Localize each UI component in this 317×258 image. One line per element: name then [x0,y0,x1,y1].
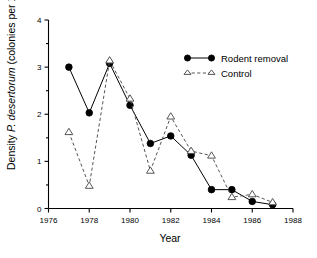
x-tick-label: 1988 [284,216,302,225]
y-tick-label: 1 [37,157,42,166]
y-tick-label: 0 [37,205,42,214]
x-tick-label: 1984 [203,216,221,225]
legend-label-rodent-removal: Rodent removal [221,53,288,64]
x-tick-group: 1976197819801982198419861988 [40,209,303,225]
y-axis-title-prefix: Density [5,132,17,170]
legend-item-rodent-removal: Rodent removal [184,53,288,64]
data-point [147,140,154,147]
data-point [106,57,114,63]
legend-marker-rodent-removal-left [184,55,190,61]
data-point [187,147,195,153]
data-point [248,190,256,196]
data-point [86,110,93,117]
data-point [208,186,215,193]
x-tick-label: 1986 [243,216,261,225]
legend-marker-rodent-removal-right [208,55,214,61]
data-point [65,128,73,134]
y-tick-label: 2 [37,110,42,119]
data-point [208,152,216,158]
chart-figure: 01234 1976197819801982198419861988 Densi… [0,0,317,258]
series-control [65,57,277,205]
y-axis-title-species: P. desertorum [5,67,17,132]
y-axis-title: Density P. desertorum (colonies per 100 … [5,0,18,170]
y-axis-title-suffix: (colonies per 100 m [5,0,17,67]
x-tick-label: 1980 [121,216,139,225]
data-point [146,167,154,173]
chart-legend: Rodent removal Control [184,53,288,79]
data-point [269,198,277,204]
series-line [69,61,273,203]
x-tick-label: 1976 [40,216,58,225]
y-tick-label: 4 [37,16,42,25]
series-rodent-removal [66,60,276,208]
legend-marker-control-right [208,70,215,75]
legend-label-control: Control [221,68,252,79]
svg-text:Density P. desertorum (colonie: Density P. desertorum (colonies per 100 … [5,0,18,170]
x-tick-label: 1978 [80,216,98,225]
data-point [66,64,73,71]
y-tick-label: 3 [37,63,42,72]
data-point [167,133,174,140]
legend-marker-control-left [184,70,191,75]
y-tick-group: 01234 [37,16,48,214]
data-point [85,182,93,188]
data-series-layer [65,57,277,208]
data-point [126,95,134,101]
data-point [167,113,175,119]
data-point [249,198,256,205]
line-chart-canvas: 01234 1976197819801982198419861988 Densi… [0,0,317,258]
legend-item-control: Control [184,68,252,79]
x-tick-label: 1982 [162,216,180,225]
x-axis-title: Year [159,232,181,244]
